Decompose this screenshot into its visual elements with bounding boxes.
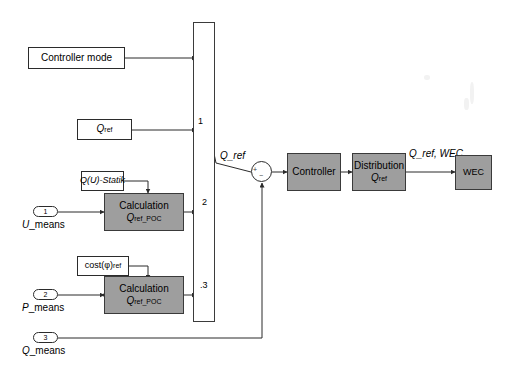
- q-ref-source-label: Qref: [97, 124, 113, 135]
- calculation-1-line1: Calculation: [119, 201, 168, 212]
- distribution-symbol: Q: [371, 172, 379, 183]
- calculation-1-subscript: ref_POC: [134, 215, 161, 222]
- cost-phi-ref-block[interactable]: cost(φ)ref: [77, 256, 129, 276]
- q-ref-source-block[interactable]: Qref: [77, 119, 132, 140]
- input-port-3-label: Q_means: [22, 345, 65, 356]
- input-port-3-suffix: _means: [30, 345, 66, 356]
- controller-label: Controller: [292, 167, 335, 178]
- input-port-2-number: 2: [44, 291, 48, 298]
- qu-statik-label: Q(U)-Statik: [80, 176, 125, 185]
- summing-junction-minus: −: [259, 172, 263, 179]
- multiport-switch-block[interactable]: [193, 22, 215, 322]
- calculation-block-2[interactable]: Calculation Qref_POC: [104, 276, 184, 314]
- distribution-block[interactable]: Distribution Qref: [352, 153, 406, 191]
- wec-label: WEC: [463, 168, 484, 177]
- switch-port-3-label: .3: [200, 280, 208, 290]
- input-port-1-suffix: _means: [29, 219, 65, 230]
- q-ref-source-subscript: ref: [104, 126, 112, 133]
- input-port-2-symbol: P: [22, 302, 29, 313]
- distribution-line1: Distribution: [354, 161, 404, 172]
- scan-artifact: [424, 75, 430, 80]
- scan-artifact: [464, 98, 469, 110]
- summing-junction-plus: +: [253, 166, 257, 173]
- qu-statik-block[interactable]: Q(U)-Statik: [81, 171, 124, 191]
- switch-port-2-label: 2: [202, 197, 207, 207]
- input-port-3-symbol: Q: [22, 345, 30, 356]
- cost-phi-ref-symbol: cost(φ): [85, 260, 113, 270]
- calculation-1-line2: Qref_POC: [126, 213, 161, 224]
- controller-block[interactable]: Controller: [287, 153, 341, 191]
- input-port-2-suffix: _means: [29, 302, 65, 313]
- input-port-3[interactable]: 3: [33, 332, 58, 343]
- q-ref-signal-text: Q_ref: [220, 150, 245, 161]
- calculation-2-subscript: ref_POC: [134, 298, 161, 305]
- wec-block[interactable]: WEC: [455, 155, 492, 190]
- input-port-3-number: 3: [44, 334, 48, 341]
- input-port-1-label: U_means: [22, 219, 65, 230]
- calculation-2-line1: Calculation: [119, 284, 168, 295]
- switch-port-1-label: 1: [198, 116, 203, 126]
- controller-mode-block[interactable]: Controller mode: [28, 47, 125, 69]
- calculation-block-1[interactable]: Calculation Qref_POC: [104, 193, 184, 231]
- distribution-subscript: ref: [379, 175, 387, 182]
- input-port-1-number: 1: [44, 208, 48, 215]
- cost-phi-ref-subscript: ref: [113, 262, 121, 269]
- block-diagram-canvas: 1 2 .3 Controller mode Qref Q(U)-Statik …: [0, 0, 516, 365]
- q-ref-signal-label: Q_ref: [220, 150, 245, 161]
- cost-phi-ref-label: cost(φ)ref: [85, 261, 122, 270]
- input-port-1[interactable]: 1: [33, 206, 58, 217]
- scan-artifact: [470, 82, 474, 104]
- input-port-2-label: P_means: [22, 302, 64, 313]
- calculation-2-line2: Qref_POC: [126, 296, 161, 307]
- controller-mode-label: Controller mode: [41, 53, 112, 64]
- distribution-line2: Qref: [371, 173, 387, 184]
- input-port-2[interactable]: 2: [33, 289, 58, 300]
